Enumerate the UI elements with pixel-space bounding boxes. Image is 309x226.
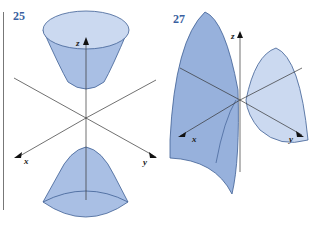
svg-text:x: x bbox=[23, 156, 29, 166]
svg-text:z: z bbox=[75, 38, 80, 48]
saddle-right-lobe bbox=[246, 48, 308, 142]
saddle-left-lobe bbox=[170, 12, 238, 194]
hyperboloid-lower-sheet bbox=[43, 147, 128, 217]
svg-text:x: x bbox=[191, 134, 197, 144]
svg-text:y: y bbox=[142, 157, 148, 167]
figure-25-graphic: z x y z x y bbox=[0, 0, 309, 226]
svg-text:z: z bbox=[230, 31, 235, 41]
